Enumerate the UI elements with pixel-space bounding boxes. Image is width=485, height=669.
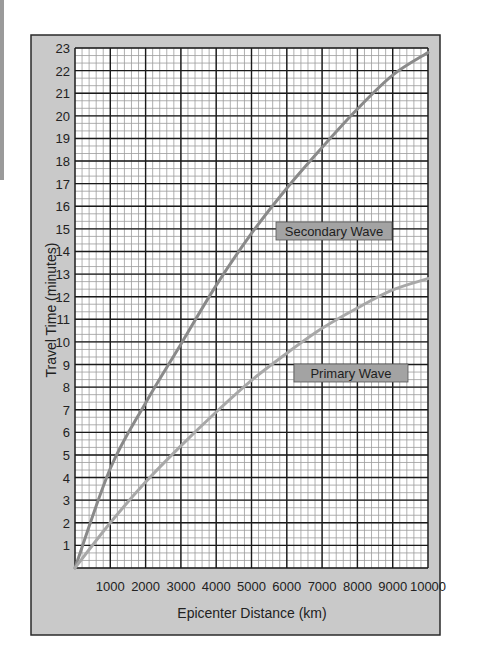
x-tick-label: 3000 <box>166 579 195 594</box>
y-tick-label: 18 <box>56 154 70 169</box>
y-tick-label: 6 <box>63 425 70 440</box>
x-tick-label: 6000 <box>272 579 301 594</box>
x-tick-label: 8000 <box>343 579 372 594</box>
x-tick-label: 10000 <box>410 579 446 594</box>
x-tick-label: 9000 <box>378 579 407 594</box>
travel-time-chart: 1000200030004000500060007000800090001000… <box>0 0 485 669</box>
y-tick-label: 4 <box>63 471 70 486</box>
y-axis-title: Travel Time (minutes) <box>43 243 59 378</box>
y-tick-label: 8 <box>63 380 70 395</box>
y-tick-label: 7 <box>63 403 70 418</box>
y-tick-label: 23 <box>56 41 70 56</box>
x-tick-label: 2000 <box>131 579 160 594</box>
y-tick-label: 20 <box>56 109 70 124</box>
y-tick-label: 22 <box>56 64 70 79</box>
y-tick-label: 1 <box>63 538 70 553</box>
y-tick-label: 21 <box>56 86 70 101</box>
y-tick-label: 3 <box>63 493 70 508</box>
x-tick-label: 5000 <box>237 579 266 594</box>
y-tick-label: 15 <box>56 222 70 237</box>
x-tick-label: 7000 <box>308 579 337 594</box>
y-tick-label: 9 <box>63 358 70 373</box>
y-tick-label: 5 <box>63 448 70 463</box>
y-tick-label: 2 <box>63 516 70 531</box>
y-tick-label: 19 <box>56 131 70 146</box>
x-tick-label: 1000 <box>96 579 125 594</box>
y-tick-label: 17 <box>56 177 70 192</box>
primary-wave-label: Primary Wave <box>294 364 408 382</box>
secondary-wave-label: Secondary Wave <box>276 222 392 240</box>
primary-wave-label-text: Primary Wave <box>310 366 391 381</box>
y-tick-label: 16 <box>56 199 70 214</box>
x-axis-title: Epicenter Distance (km) <box>177 605 326 621</box>
secondary-wave-label-text: Secondary Wave <box>285 224 384 239</box>
x-tick-label: 4000 <box>202 579 231 594</box>
